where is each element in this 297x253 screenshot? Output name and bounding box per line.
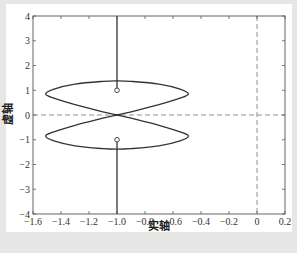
x-tick-label: −1.0 <box>108 216 126 227</box>
y-tick-label: −2 <box>19 159 30 170</box>
pole-circle-marker <box>115 137 120 142</box>
y-tick-label: 3 <box>25 35 30 46</box>
y-tick-label: −1 <box>19 134 30 145</box>
x-tick-label: −1.4 <box>52 216 70 227</box>
axes-frame <box>33 16 285 214</box>
x-tick-label: 0 <box>255 216 260 227</box>
x-tick-label: 0.2 <box>279 216 292 227</box>
x-tick-label: −0.4 <box>192 216 210 227</box>
x-axis-label: 实轴 <box>148 219 170 233</box>
reference-lines <box>33 16 285 214</box>
axes-box <box>33 16 285 214</box>
y-axis-label: 虚轴 <box>1 103 15 125</box>
root-locus-chart: −1.6−1.4−1.2−1.0−0.8−0.6−0.4−0.200.2 −4−… <box>0 0 297 253</box>
y-tick-label: −4 <box>19 209 30 220</box>
y-tick-label: 4 <box>25 11 30 22</box>
pole-circle-marker <box>115 88 120 93</box>
x-tick-label: −0.2 <box>220 216 238 227</box>
y-tick-label: 0 <box>25 110 30 121</box>
y-tick-label: −3 <box>19 184 30 195</box>
y-tick-label: 2 <box>25 60 30 71</box>
x-axis-ticks: −1.6−1.4−1.2−1.0−0.8−0.6−0.4−0.200.2 <box>24 16 291 227</box>
y-tick-label: 1 <box>25 85 30 96</box>
x-tick-label: −1.2 <box>80 216 98 227</box>
